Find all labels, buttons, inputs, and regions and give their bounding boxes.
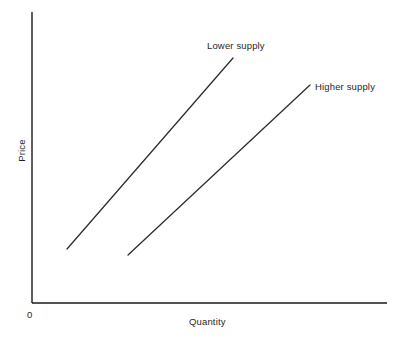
lower-supply-curve <box>67 58 233 249</box>
x-axis-label: Quantity <box>189 316 226 327</box>
lower-supply-label: Lower supply <box>207 40 265 51</box>
y-axis-label: Price <box>16 128 27 174</box>
higher-supply-label: Higher supply <box>315 81 375 92</box>
higher-supply-curve <box>128 85 310 255</box>
supply-shift-figure: Lower supply Higher supply Price Quantit… <box>0 0 402 341</box>
origin-label: 0 <box>27 309 32 320</box>
chart-canvas <box>0 0 402 341</box>
